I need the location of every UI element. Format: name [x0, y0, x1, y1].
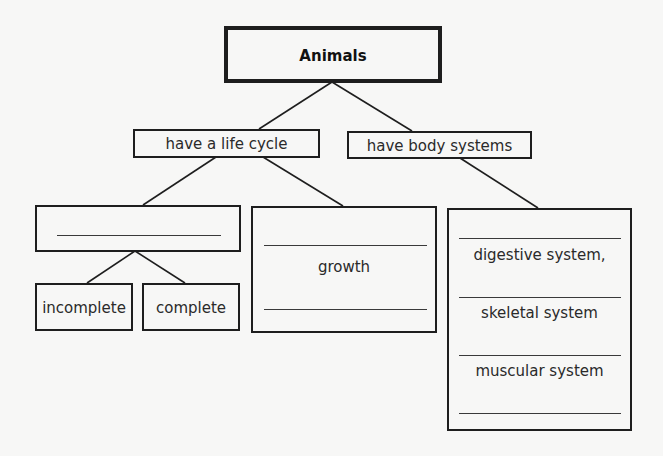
blank-answer-line[interactable]: [57, 235, 221, 236]
connector-blank-to-incomplete: [87, 251, 135, 283]
connector-life-cycle-to-growth: [263, 157, 343, 206]
growth-label: growth: [253, 258, 435, 276]
connector-body-systems-to-list: [460, 158, 538, 208]
body-systems-label: have body systems: [349, 137, 530, 155]
body-system-item-muscular: muscular system: [449, 362, 630, 380]
body-system-blank-line-3[interactable]: [459, 355, 621, 356]
incomplete-box: incomplete: [35, 283, 133, 331]
animals-title: Animals: [228, 47, 438, 65]
connector-animals-to-life-cycle: [259, 82, 332, 129]
animals-root-box: Animals: [224, 26, 442, 83]
body-system-blank-line-2[interactable]: [459, 297, 621, 298]
connector-blank-to-complete: [135, 251, 185, 283]
complete-box: complete: [142, 283, 240, 331]
life-cycle-box: have a life cycle: [133, 129, 320, 158]
complete-label: complete: [144, 299, 238, 317]
incomplete-label: incomplete: [37, 299, 131, 317]
body-systems-list-box: digestive system, skeletal system muscul…: [447, 208, 632, 431]
body-system-item-digestive: digestive system,: [449, 246, 630, 264]
body-system-blank-line-1[interactable]: [459, 238, 621, 239]
connector-animals-to-body-systems: [332, 82, 412, 131]
growth-box: growth: [251, 206, 437, 333]
body-system-item-skeletal: skeletal system: [449, 304, 630, 322]
growth-blank-line-bottom[interactable]: [264, 309, 427, 310]
connector-life-cycle-to-blank: [143, 157, 216, 205]
body-systems-box: have body systems: [347, 131, 532, 159]
blank-answer-box: [35, 205, 241, 252]
life-cycle-label: have a life cycle: [135, 135, 318, 153]
body-system-blank-line-4[interactable]: [459, 413, 621, 414]
growth-blank-line-top[interactable]: [264, 245, 427, 246]
